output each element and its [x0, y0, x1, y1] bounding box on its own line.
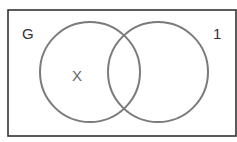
- corner-label: 1: [213, 25, 221, 42]
- region-label-x: X: [72, 67, 82, 84]
- venn-diagram: G 1 X: [0, 0, 237, 142]
- universe-rectangle: [8, 10, 236, 136]
- universe-label: G: [22, 25, 34, 42]
